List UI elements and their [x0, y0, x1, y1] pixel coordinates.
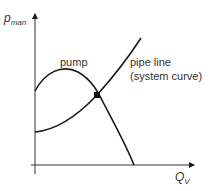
y-axis-label: pman — [3, 11, 27, 27]
system-curve — [35, 38, 141, 132]
pump-curve — [35, 69, 134, 165]
pump-system-diagram: pman QV pump pipe line (system curve) — [0, 0, 210, 191]
x-axis-label: QV — [175, 170, 190, 186]
system-curve-label-line1: pipe line — [130, 56, 171, 68]
system-curve-label-line2: (system curve) — [130, 70, 202, 82]
operating-point-marker — [94, 92, 100, 98]
pump-curve-label: pump — [60, 56, 88, 68]
